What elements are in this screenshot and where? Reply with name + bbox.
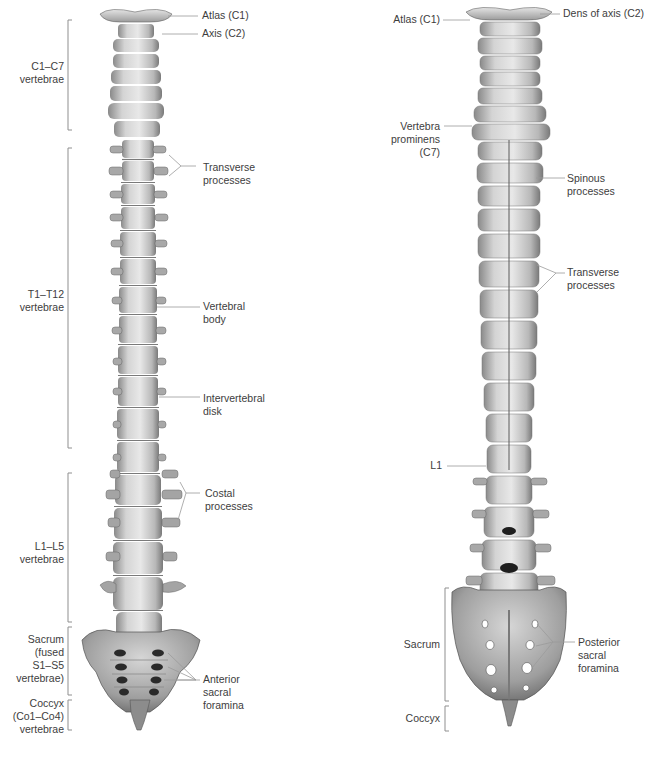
anterior-region-brackets: [68, 20, 72, 730]
label-dens-of-axis: Dens of axis (C2): [563, 7, 644, 20]
region-label-thoracic: T1–T12 vertebrae: [0, 288, 64, 314]
region-label-lumbar: L1–L5 vertebrae: [0, 540, 64, 566]
anterior-leader-lines: [157, 16, 200, 680]
label-transverse-processes-posterior: Transverse processes: [567, 266, 619, 292]
spine-figure: C1–C7 vertebrae T1–T12 vertebrae L1–L5 v…: [0, 0, 645, 760]
spine-illustration: [0, 0, 645, 760]
label-posterior-sacral-foramina: Posterior sacral foramina: [578, 636, 620, 675]
posterior-region-brackets: [445, 588, 449, 731]
region-label-sacrum: Sacrum (fused S1–S5 vertebrae): [0, 633, 64, 685]
region-label-coccyx-posterior: Coccyx: [380, 712, 440, 725]
region-label-cervical: C1–C7 vertebrae: [0, 60, 64, 86]
label-spinous-processes: Spinous processes: [567, 172, 615, 198]
label-l1: L1: [400, 459, 442, 472]
label-transverse-processes: Transverse processes: [203, 161, 255, 187]
label-vertebral-body: Vertebral body: [203, 300, 245, 326]
label-atlas: Atlas (C1): [202, 9, 249, 22]
anterior-spine: [68, 9, 200, 730]
label-intervertebral-disk: Intervertebral disk: [203, 392, 265, 418]
region-label-coccyx: Coccyx (Co1–Co4) vertebrae: [0, 697, 64, 736]
label-anterior-sacral-foramina: Anterior sacral foramina: [203, 673, 244, 712]
label-costal-processes: Costal processes: [205, 487, 253, 513]
label-vertebra-prominens: Vertebra prominens (C7): [368, 120, 440, 159]
label-atlas-posterior: Atlas (C1): [368, 13, 440, 26]
label-axis: Axis (C2): [202, 27, 245, 40]
region-label-sacrum-posterior: Sacrum: [380, 638, 440, 651]
posterior-spine: [443, 7, 575, 731]
